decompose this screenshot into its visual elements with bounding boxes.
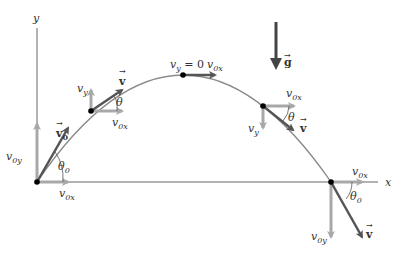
apex-dot [180, 72, 186, 78]
v0x-label: v0x [112, 116, 128, 131]
ascending-dot [88, 108, 94, 114]
launch-point-vectors: → v0 v0y v0x θ0 [6, 118, 75, 202]
theta-label: θ [116, 96, 123, 109]
svg-text:→: → [284, 50, 291, 60]
theta0-label: θ0 [350, 190, 362, 205]
descending-point-vectors: v0x vy θ → v [248, 87, 307, 137]
launch-dot [34, 179, 40, 185]
v-velocity [331, 182, 362, 237]
gravity-vector: g → [270, 22, 292, 70]
ascending-point-vectors: → v vy v0x θ [77, 66, 128, 131]
v0y-label: v0y [311, 230, 327, 245]
vy-zero-label: vy = 0 [170, 58, 204, 73]
v-label: v [299, 122, 307, 135]
v0x-label: v0x [59, 187, 75, 202]
projectile-diagram: y x g → → v0 v0y v0x θ0 → v vy v0x θ [0, 0, 420, 254]
v0x-label: v0x [352, 165, 368, 180]
v0y-label: v0y [6, 150, 22, 165]
vy-label: vy [77, 82, 88, 97]
v-label: v [118, 75, 126, 88]
descending-dot [260, 103, 266, 109]
landing-point-vectors: v0x θ0 v0y → v [311, 165, 373, 245]
x-axis-label: x [385, 176, 392, 189]
v0x-label: v0x [207, 58, 223, 73]
landing-dot [328, 179, 334, 185]
vy-label: vy [248, 122, 259, 137]
theta0-label: θ0 [58, 160, 70, 175]
y-axis-label: y [32, 12, 40, 25]
axes: y x [32, 12, 392, 189]
v0x-label: v0x [286, 87, 302, 102]
theta-label: θ [288, 111, 295, 124]
v-label: v [365, 228, 373, 241]
